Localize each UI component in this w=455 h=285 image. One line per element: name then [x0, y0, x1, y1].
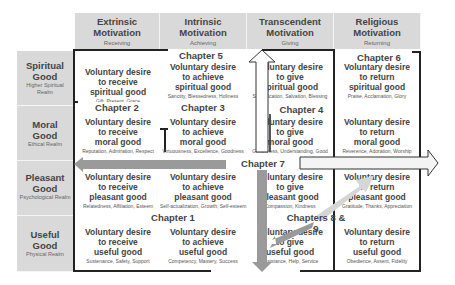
chapter-3-label: Chapter 3: [172, 102, 234, 113]
arrows-layer: [0, 0, 455, 285]
chapter-6-label: Chapter 6: [348, 52, 410, 63]
arrow-left-icon: [74, 157, 226, 172]
arrow-down-icon: [252, 170, 272, 272]
chapter-1-label: Chapter 1: [142, 212, 204, 223]
arrow-up-icon: [249, 50, 275, 152]
chapter-4-label: Chapter 4: [274, 104, 329, 115]
chapters-8-9-label: Chapters 8 & 9: [286, 212, 346, 234]
chapter-2-label: Chapter 2: [86, 102, 148, 113]
chapter-7-label: Chapter 7: [230, 158, 296, 169]
chapter-5-label: Chapter 5: [170, 50, 232, 61]
arrow-right-icon: [300, 150, 438, 176]
